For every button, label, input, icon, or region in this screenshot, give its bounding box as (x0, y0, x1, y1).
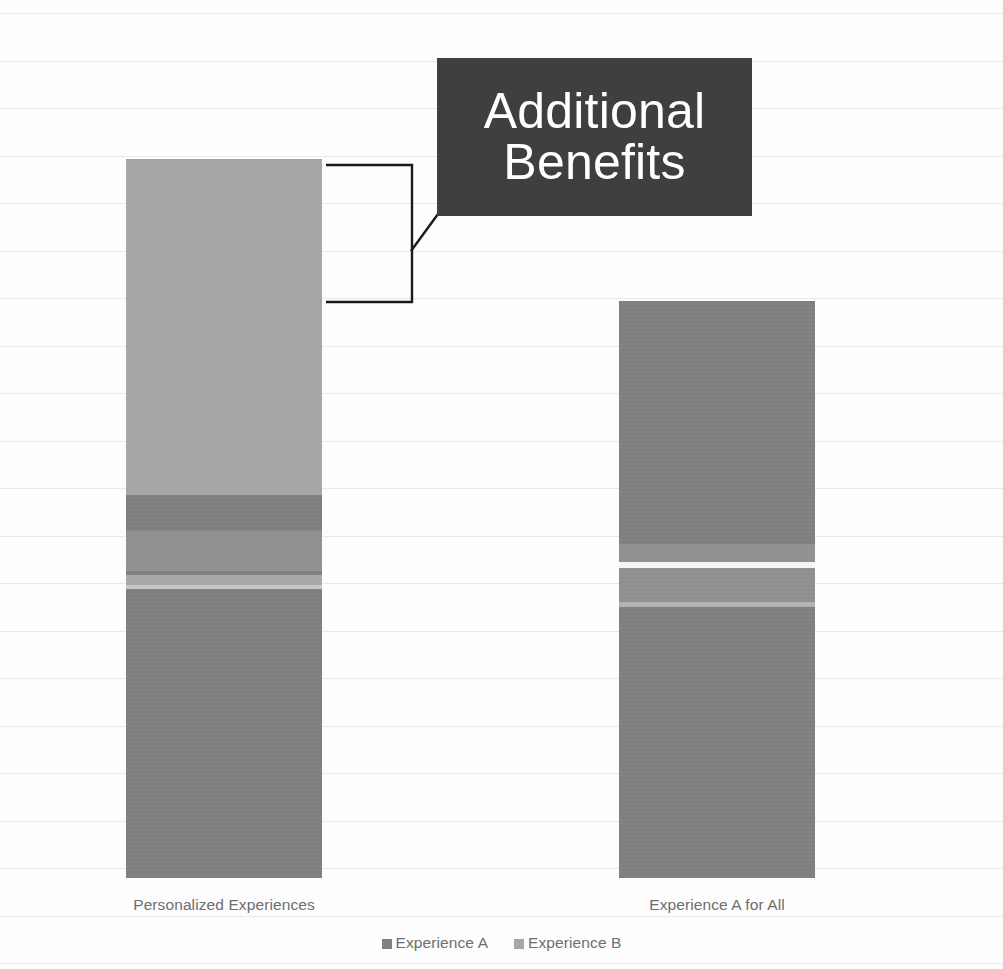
chart-legend: Experience A Experience B (0, 934, 1003, 952)
category-label-experience-a-for-all: Experience A for All (569, 896, 865, 914)
bar-experience-a-for-all[interactable] (619, 301, 815, 878)
bar-segment-experience-a[interactable] (126, 495, 322, 878)
callout-line-2: Benefits (503, 137, 685, 188)
legend-item-experience-a[interactable]: Experience A (382, 934, 489, 952)
legend-item-experience-b[interactable]: Experience B (514, 934, 621, 952)
legend-label-experience-b: Experience B (528, 934, 621, 952)
bar-segment-experience-a[interactable] (619, 301, 815, 878)
additional-benefits-callout[interactable]: Additional Benefits (437, 58, 752, 216)
bar-segment-experience-b[interactable] (126, 159, 322, 495)
legend-swatch-icon (382, 939, 392, 949)
legend-swatch-icon (514, 939, 524, 949)
chart-canvas: Additional Benefits Personalized Experie… (0, 0, 1003, 969)
legend-label-experience-a: Experience A (396, 934, 489, 952)
bar-personalized-experiences[interactable] (126, 159, 322, 878)
callout-line-1: Additional (484, 86, 706, 137)
category-label-personalized-experiences: Personalized Experiences (76, 896, 372, 914)
